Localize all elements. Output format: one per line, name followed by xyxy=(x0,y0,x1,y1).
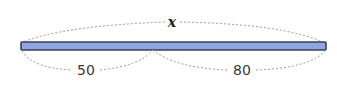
total-arc-left xyxy=(21,22,165,43)
total-label: x xyxy=(167,14,177,30)
total-arc-right xyxy=(180,22,325,43)
segment-diagram: x 50 80 xyxy=(0,0,337,88)
segment-bar xyxy=(21,42,326,50)
segment1-arc-right xyxy=(100,50,153,70)
segment1-label: 50 xyxy=(77,62,95,78)
segment2-arc-right xyxy=(256,51,325,70)
segment2-label: 80 xyxy=(233,62,251,78)
diagram-svg: x 50 80 xyxy=(0,0,337,88)
segment1-arc-left xyxy=(22,51,72,70)
segment2-arc-left xyxy=(153,50,228,70)
